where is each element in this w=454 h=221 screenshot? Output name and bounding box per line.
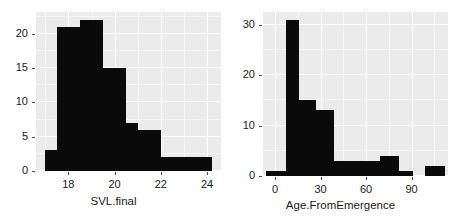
y-tick-label: 30 <box>229 18 255 30</box>
gridline-minor-vertical <box>45 12 46 171</box>
histogram-bar <box>103 68 126 171</box>
x-tick-label: 0 <box>255 183 295 195</box>
y-tick-mark <box>32 34 35 35</box>
histogram-bar <box>299 100 316 176</box>
x-axis-title-right: Age.FromEmergence <box>227 199 454 211</box>
x-tick-mark <box>161 172 162 175</box>
histogram-bar <box>286 20 300 176</box>
gridline-vertical <box>275 12 276 176</box>
gridline-minor-horizontal <box>36 16 221 17</box>
histogram-panel-svl-final: 05101520 18202224 SVL.final <box>0 0 227 221</box>
gridline-minor-vertical <box>434 12 435 176</box>
histogram-figure: 05101520 18202224 SVL.final 0102030 0306… <box>0 0 454 221</box>
histogram-bar <box>425 166 445 176</box>
gridline-vertical <box>366 12 367 176</box>
x-tick-label: 90 <box>392 183 432 195</box>
gridline-minor-vertical <box>389 12 390 176</box>
x-tick-mark <box>68 172 69 175</box>
histogram-bar <box>266 171 286 176</box>
y-tick-label: 0 <box>2 164 28 176</box>
x-tick-mark <box>366 177 367 180</box>
gridline-vertical <box>207 12 208 171</box>
y-tick-mark <box>32 102 35 103</box>
gridline-vertical <box>161 12 162 171</box>
x-tick-mark <box>115 172 116 175</box>
x-tick-label: 60 <box>346 183 386 195</box>
plot-area-left <box>36 12 221 171</box>
y-tick-mark <box>32 137 35 138</box>
y-tick-label: 20 <box>229 68 255 80</box>
histogram-bar <box>380 156 400 176</box>
gridline-minor-vertical <box>184 12 185 171</box>
x-tick-label: 22 <box>141 178 181 190</box>
histogram-bar <box>161 157 212 171</box>
histogram-bar <box>354 161 380 176</box>
x-tick-mark <box>412 177 413 180</box>
y-tick-label: 15 <box>2 61 28 73</box>
histogram-bar <box>80 20 103 171</box>
y-tick-label: 0 <box>229 169 255 181</box>
y-tick-mark <box>32 171 35 172</box>
y-tick-mark <box>259 126 262 127</box>
plot-area-right <box>263 12 448 176</box>
gridline-minor-vertical <box>343 12 344 176</box>
y-tick-mark <box>32 68 35 69</box>
y-tick-mark <box>259 176 262 177</box>
x-tick-label: 30 <box>301 183 341 195</box>
y-tick-label: 5 <box>2 130 28 142</box>
y-tick-label: 10 <box>2 95 28 107</box>
x-tick-mark <box>321 177 322 180</box>
x-tick-label: 24 <box>187 178 227 190</box>
x-tick-label: 18 <box>48 178 88 190</box>
histogram-bar <box>45 150 57 171</box>
y-tick-label: 10 <box>229 119 255 131</box>
gridline-vertical <box>412 12 413 176</box>
x-axis-title-left: SVL.final <box>0 195 227 207</box>
y-tick-label: 20 <box>2 27 28 39</box>
y-tick-mark <box>259 25 262 26</box>
histogram-bar <box>334 161 354 176</box>
histogram-bar <box>316 110 334 176</box>
histogram-bar <box>399 171 413 176</box>
histogram-bar <box>126 123 138 171</box>
histogram-bar <box>138 130 161 171</box>
x-tick-mark <box>207 172 208 175</box>
histogram-panel-age-from-emergence: 0102030 0306090 Age.FromEmergence <box>227 0 454 221</box>
x-tick-label: 20 <box>95 178 135 190</box>
histogram-bar <box>57 27 80 171</box>
y-tick-mark <box>259 75 262 76</box>
x-tick-mark <box>275 177 276 180</box>
